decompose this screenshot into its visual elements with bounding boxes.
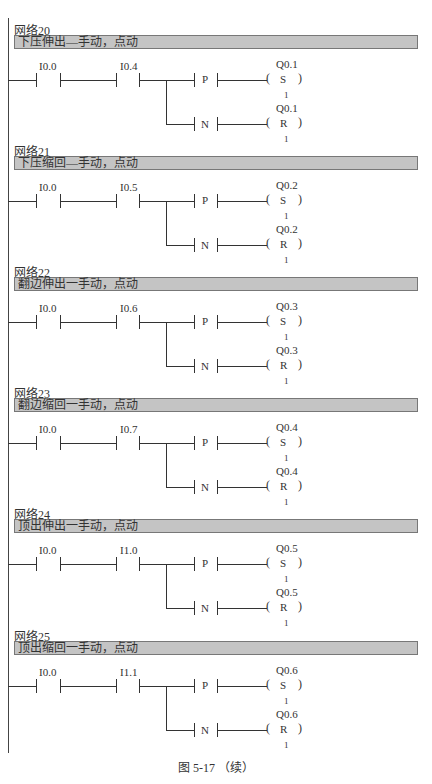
coil-letter: R — [280, 117, 287, 129]
branch-wire — [166, 443, 167, 488]
negative-edge-n: N — [201, 239, 209, 251]
contact-left-bar — [116, 557, 117, 571]
edge-left-bar — [194, 359, 195, 373]
positive-edge-p: P — [202, 315, 208, 327]
network-24: 网络24 顶出伸出一手动，点动 I0.0 I1.0 P N — [0, 514, 432, 635]
edge-left-bar — [194, 73, 195, 87]
edge-left-bar — [194, 194, 195, 208]
coil-letter: R — [280, 359, 287, 371]
set-coil: (S) — [266, 555, 302, 575]
contact-label: I0.0 — [39, 302, 56, 314]
edge-left-bar — [194, 315, 195, 329]
coil-address: Q0.3 — [276, 344, 298, 356]
network-comment[interactable]: 下压伸出—手动，点动 — [14, 35, 418, 49]
network-comment[interactable]: 顶出缩回一手动，点动 — [14, 641, 418, 655]
rung-wire — [60, 686, 116, 687]
contact-label: I0.0 — [39, 423, 56, 435]
branch-wire — [166, 730, 194, 731]
coil-count: 1 — [284, 740, 289, 750]
edge-left-bar — [194, 679, 195, 693]
coil-count: 1 — [284, 90, 289, 100]
positive-edge-p: P — [202, 679, 208, 691]
coil-address: Q0.2 — [276, 179, 298, 191]
coil-address: Q0.6 — [276, 708, 298, 720]
rung-wire — [60, 322, 116, 323]
rung-wire — [60, 564, 116, 565]
negative-edge-n: N — [201, 118, 209, 130]
branch-wire — [166, 487, 194, 488]
coil-address: Q0.3 — [276, 300, 298, 312]
coil-count: 1 — [284, 453, 289, 463]
branch-wire — [166, 201, 167, 246]
negative-edge-n: N — [201, 481, 209, 493]
rung-wire — [217, 201, 267, 202]
coil-address: Q0.5 — [276, 586, 298, 598]
coil-count: 1 — [284, 211, 289, 221]
coil-letter: R — [280, 723, 287, 735]
coil-letter: S — [280, 194, 286, 206]
contact-left-bar — [116, 436, 117, 450]
network-comment[interactable]: 顶出伸出一手动，点动 — [14, 519, 418, 533]
edge-left-bar — [194, 238, 195, 252]
contact-label: I0.0 — [39, 60, 56, 72]
contact-left-bar — [116, 73, 117, 87]
coil-count: 1 — [284, 696, 289, 706]
contact-label: I0.0 — [39, 666, 56, 678]
reset-coil: (R) — [266, 721, 302, 741]
network-20: 网络20 下压伸出—手动，点动 I0.0 I0.4 P N — [0, 30, 432, 151]
contact-left-bar — [116, 194, 117, 208]
reset-coil: (R) — [266, 478, 302, 498]
coil-count: 1 — [284, 134, 289, 144]
rung-wire — [60, 201, 116, 202]
contact-left-bar — [36, 679, 37, 693]
rung-wire — [8, 686, 37, 687]
rung-wire — [60, 443, 116, 444]
network-22: 网络22 翻边伸出一手动，点动 I0.0 I0.6 P N — [0, 272, 432, 393]
rung-wire — [217, 124, 267, 125]
positive-edge-p: P — [202, 436, 208, 448]
contact-label: I0.6 — [120, 302, 137, 314]
network-comment[interactable]: 翻边缩回一手动，点动 — [14, 398, 418, 412]
network-comment[interactable]: 翻边伸出一手动，点动 — [14, 277, 418, 291]
rung-wire — [217, 608, 267, 609]
coil-count: 1 — [284, 618, 289, 628]
branch-wire — [166, 686, 167, 731]
negative-edge-n: N — [201, 724, 209, 736]
rung-wire — [217, 80, 267, 81]
coil-letter: S — [280, 679, 286, 691]
network-comment[interactable]: 下压缩回—手动，点动 — [14, 156, 418, 170]
edge-left-bar — [194, 480, 195, 494]
rung-wire — [217, 686, 267, 687]
coil-address: Q0.1 — [276, 58, 298, 70]
coil-address: Q0.2 — [276, 223, 298, 235]
branch-wire — [166, 245, 194, 246]
network-21: 网络21 下压缩回—手动，点动 I0.0 I0.5 P N — [0, 151, 432, 272]
network-25: 网络25 顶出缩回一手动，点动 I0.0 I1.1 P N — [0, 636, 432, 757]
reset-coil: (R) — [266, 357, 302, 377]
branch-wire — [166, 366, 194, 367]
contact-label: I0.0 — [39, 181, 56, 193]
contact-label: I0.0 — [39, 544, 56, 556]
branch-wire — [166, 564, 167, 609]
rung-wire — [217, 487, 267, 488]
coil-letter: S — [280, 315, 286, 327]
coil-letter: R — [280, 601, 287, 613]
coil-count: 1 — [284, 574, 289, 584]
contact-left-bar — [36, 73, 37, 87]
rung-wire — [217, 730, 267, 731]
coil-address: Q0.5 — [276, 542, 298, 554]
edge-left-bar — [194, 557, 195, 571]
coil-address: Q0.1 — [276, 102, 298, 114]
branch-wire — [166, 80, 167, 125]
contact-left-bar — [36, 194, 37, 208]
set-coil: (S) — [266, 192, 302, 212]
coil-address: Q0.4 — [276, 465, 298, 477]
rung-wire — [217, 366, 267, 367]
figure-caption: 图 5-17 （续） — [0, 758, 432, 776]
coil-address: Q0.4 — [276, 421, 298, 433]
coil-count: 1 — [284, 255, 289, 265]
set-coil: (S) — [266, 434, 302, 454]
contact-left-bar — [36, 557, 37, 571]
contact-left-bar — [116, 315, 117, 329]
rung-wire — [8, 443, 37, 444]
